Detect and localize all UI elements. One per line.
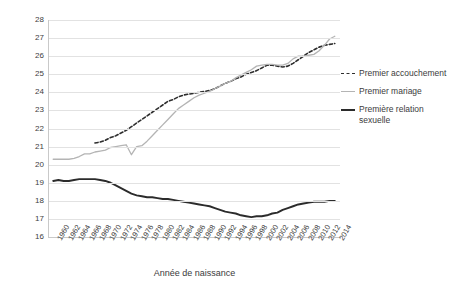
y-tick-label: 16	[0, 233, 44, 241]
grid-line	[48, 92, 340, 93]
grid-line	[48, 74, 340, 75]
x-axis-title: Année de naissance	[48, 268, 341, 278]
grid-line	[48, 56, 340, 57]
y-tick-label: 19	[0, 179, 44, 187]
y-tick-label: 25	[0, 70, 44, 78]
plot-area	[48, 20, 340, 237]
y-tick-label: 27	[0, 34, 44, 42]
y-tick-label: 24	[0, 88, 44, 96]
legend-entry[interactable]: Premier mariage	[341, 86, 453, 97]
y-tick-label: 18	[0, 197, 44, 205]
grid-line	[48, 110, 340, 111]
chart-container: 16171819202122232425262728 1960196219641…	[0, 0, 453, 290]
grid-line	[48, 147, 340, 148]
y-tick-label: 28	[0, 16, 44, 24]
light-line-swatch	[341, 87, 355, 97]
bold-line-swatch	[341, 105, 355, 115]
y-tick-label: 17	[0, 215, 44, 223]
grid-line	[48, 165, 340, 166]
legend-label: Première relation sexuelle	[359, 104, 453, 126]
legend-entry[interactable]: Première relation sexuelle	[341, 104, 453, 126]
grid-line	[48, 129, 340, 130]
chart-legend: Premier accouchementPremier mariagePremi…	[341, 68, 453, 133]
series-line	[53, 36, 335, 159]
y-tick-label: 21	[0, 143, 44, 151]
grid-line	[48, 38, 340, 39]
grid-line	[48, 20, 340, 21]
grid-line	[48, 219, 340, 220]
y-tick-label: 22	[0, 125, 44, 133]
y-tick-label: 20	[0, 161, 44, 169]
series-line	[53, 179, 335, 217]
y-axis-line	[48, 20, 49, 238]
y-axis-labels: 16171819202122232425262728	[0, 0, 44, 290]
y-tick-label: 26	[0, 52, 44, 60]
dashed-line-swatch	[341, 69, 355, 79]
legend-label: Premier accouchement	[359, 68, 446, 79]
legend-entry[interactable]: Premier accouchement	[341, 68, 453, 79]
y-tick-label: 23	[0, 106, 44, 114]
legend-label: Premier mariage	[359, 86, 422, 97]
grid-line	[48, 183, 340, 184]
grid-line	[48, 201, 340, 202]
